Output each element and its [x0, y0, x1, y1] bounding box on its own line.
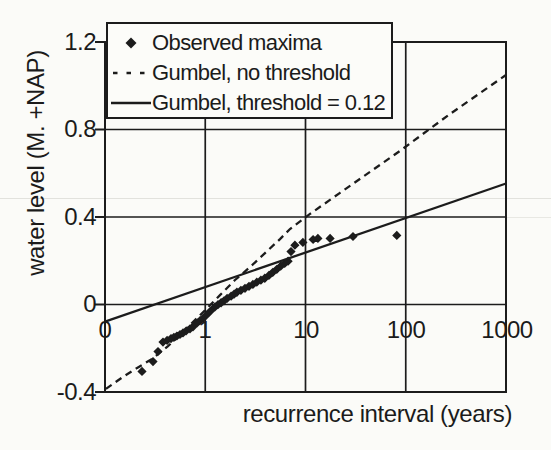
dashed-line-icon — [110, 66, 152, 80]
x-tick-label: 1000 — [465, 317, 549, 343]
x-tick-label: 0 — [63, 317, 147, 343]
solid-line-icon — [110, 96, 152, 110]
legend-label: Gumbel, threshold = 0.12 — [152, 90, 385, 116]
x-tick-label: 1 — [163, 317, 247, 343]
observed-maxima-points — [137, 231, 401, 376]
legend: Observed maxima Gumbel, no threshold Gum… — [106, 22, 393, 119]
x-tick-label: 100 — [364, 317, 448, 343]
legend-label: Observed maxima — [152, 30, 322, 56]
legend-entry-gumbel-no-threshold: Gumbel, no threshold — [110, 58, 391, 88]
y-tick-label: 0 — [26, 291, 96, 317]
legend-entry-gumbel-threshold: Gumbel, threshold = 0.12 — [110, 88, 391, 118]
y-tick-label: -0.4 — [26, 379, 96, 405]
x-tick-label: 10 — [264, 317, 348, 343]
legend-label: Gumbel, no threshold — [152, 60, 350, 86]
diamond-marker-icon — [110, 36, 152, 50]
x-axis-title: recurrence interval (years) — [243, 400, 512, 428]
y-axis-title: water level (M. +NAP) — [22, 50, 50, 276]
legend-entry-observed-maxima: Observed maxima — [110, 28, 391, 58]
gumbel-fit-chart: 1.2 0.8 0.4 0 -0.4 0 1 10 100 1000 water… — [0, 0, 551, 450]
